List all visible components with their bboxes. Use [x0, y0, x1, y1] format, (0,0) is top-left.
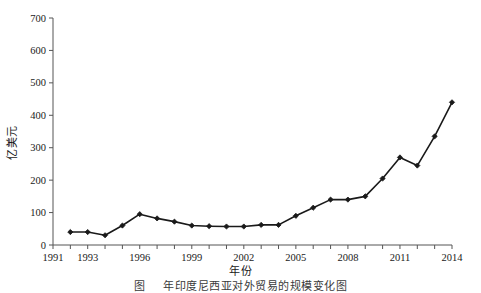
data-point-marker [311, 205, 316, 210]
data-point-marker [68, 229, 73, 234]
y-tick-label: 100 [30, 207, 46, 218]
series-line [70, 102, 452, 235]
y-tick-label: 600 [30, 45, 46, 56]
x-axis-title: 年份 [0, 262, 481, 278]
data-point-marker [224, 224, 229, 229]
y-tick-label: 500 [30, 77, 46, 88]
data-point-marker [259, 222, 264, 227]
y-tick-label: 300 [30, 142, 46, 153]
axis-layer [49, 18, 452, 249]
data-point-marker [85, 229, 90, 234]
data-point-marker [172, 219, 177, 224]
y-tick-label: 0 [41, 240, 46, 251]
figure-caption: 图 年印度尼西亚对外贸易的规模变化图 [0, 277, 481, 293]
y-tick-label: 200 [30, 175, 46, 186]
data-point-marker [189, 223, 194, 228]
y-tick-label: 400 [30, 110, 46, 121]
data-point-marker [345, 197, 350, 202]
data-point-marker [154, 216, 159, 221]
data-point-marker [241, 224, 246, 229]
data-point-marker [328, 197, 333, 202]
tick-label-layer: 0100200300400500600700199119931996199920… [30, 13, 463, 264]
y-tick-label: 700 [30, 13, 46, 24]
y-axis-title: 亿美元 [0, 0, 22, 285]
data-point-marker [207, 224, 212, 229]
data-series-layer [68, 100, 455, 238]
